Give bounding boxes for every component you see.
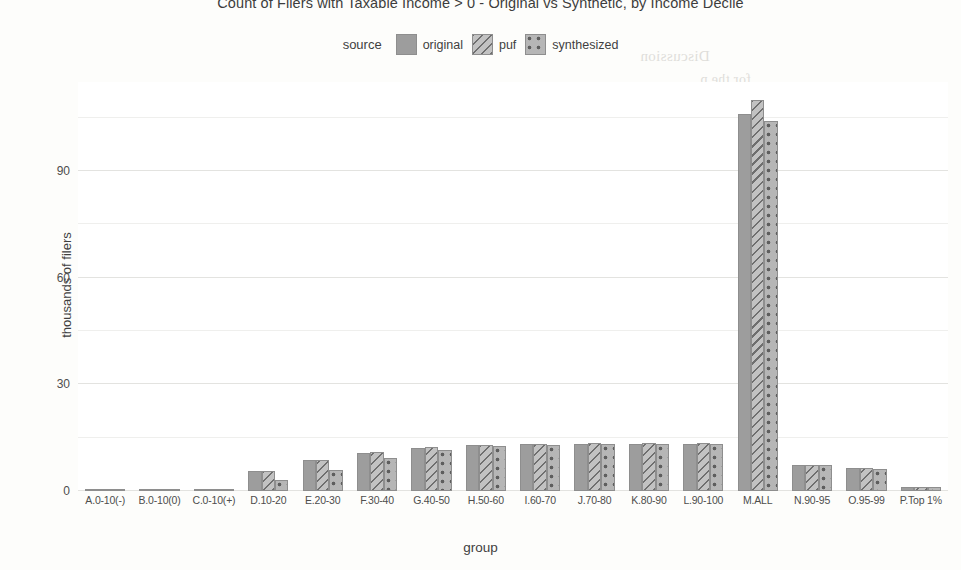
bar-synthesized[interactable] — [710, 444, 723, 491]
legend-swatch-original — [396, 34, 417, 55]
bar-puf[interactable] — [805, 465, 818, 491]
bar-chart: Count of Filers with Taxable Income > 0 … — [0, 0, 961, 570]
bar-group — [894, 82, 948, 491]
bar-synthesized[interactable] — [819, 465, 832, 491]
bar-puf[interactable] — [697, 443, 710, 491]
legend-label-synthesized: synthesized — [552, 38, 618, 52]
chart-legend: source original puf synthesized — [0, 34, 961, 55]
bar-group — [731, 82, 785, 491]
bar-puf[interactable] — [207, 489, 220, 491]
bar-original[interactable] — [901, 487, 914, 491]
bar-original[interactable] — [139, 489, 152, 491]
bar-puf[interactable] — [588, 443, 601, 491]
bar-group — [241, 82, 295, 491]
bar-synthesized[interactable] — [221, 489, 234, 491]
y-axis-label: thousands of filers — [59, 232, 74, 338]
x-tick-label: F.30-40 — [350, 494, 404, 506]
legend-title: source — [343, 37, 382, 52]
x-tick-label: O.95-99 — [839, 494, 893, 506]
bar-original[interactable] — [357, 453, 370, 491]
legend-label-original: original — [423, 38, 463, 52]
bar-puf[interactable] — [479, 445, 492, 491]
bar-puf[interactable] — [316, 460, 329, 491]
x-tick-label: A.0-10(-) — [78, 494, 132, 506]
x-tick-label: I.60-70 — [513, 494, 567, 506]
bar-synthesized[interactable] — [493, 446, 506, 491]
bar-group — [839, 82, 893, 491]
bar-puf[interactable] — [262, 471, 275, 491]
bar-original[interactable] — [411, 448, 424, 491]
bar-group — [350, 82, 404, 491]
bar-puf[interactable] — [425, 447, 438, 491]
bar-synthesized[interactable] — [384, 458, 397, 491]
bar-original[interactable] — [738, 114, 751, 491]
bar-synthesized[interactable] — [656, 444, 669, 491]
x-tick-label: K.80-90 — [622, 494, 676, 506]
x-tick-label: D.10-20 — [241, 494, 295, 506]
x-tick-label: N.90-95 — [785, 494, 839, 506]
bar-synthesized[interactable] — [329, 470, 342, 491]
y-tick-label: 60 — [30, 271, 70, 285]
bar-puf[interactable] — [860, 468, 873, 491]
bar-groups — [78, 82, 948, 491]
bar-group — [785, 82, 839, 491]
legend-swatch-synthesized — [525, 34, 546, 55]
bar-original[interactable] — [85, 489, 98, 491]
bar-puf[interactable] — [98, 489, 111, 491]
legend-item-puf[interactable]: puf — [472, 34, 516, 55]
x-tick-label: C.0-10(+) — [187, 494, 241, 506]
bar-synthesized[interactable] — [873, 469, 886, 491]
bar-puf[interactable] — [370, 452, 383, 491]
x-axis-label: group — [0, 540, 961, 555]
legend-item-original[interactable]: original — [396, 34, 463, 55]
x-tick-label: E.20-30 — [296, 494, 350, 506]
bar-group — [676, 82, 730, 491]
y-tick-label: 0 — [30, 484, 70, 498]
x-tick-label: L.90-100 — [676, 494, 730, 506]
bar-synthesized[interactable] — [438, 450, 451, 491]
legend-swatch-puf — [472, 34, 493, 55]
bar-original[interactable] — [248, 471, 261, 491]
bar-puf[interactable] — [533, 444, 546, 491]
bar-original[interactable] — [683, 444, 696, 491]
chart-title: Count of Filers with Taxable Income > 0 … — [0, 0, 961, 11]
y-tick-label: 30 — [30, 377, 70, 391]
bar-synthesized[interactable] — [601, 444, 614, 491]
bar-original[interactable] — [194, 489, 207, 491]
bar-group — [567, 82, 621, 491]
bar-original[interactable] — [629, 444, 642, 491]
bar-original[interactable] — [846, 468, 859, 491]
bar-original[interactable] — [792, 465, 805, 491]
y-tick-label: 90 — [30, 164, 70, 178]
legend-item-synthesized[interactable]: synthesized — [525, 34, 618, 55]
bar-group — [187, 82, 241, 491]
x-tick-label: G.40-50 — [404, 494, 458, 506]
legend-label-puf: puf — [499, 38, 516, 52]
bar-group — [296, 82, 350, 491]
bar-synthesized[interactable] — [764, 121, 777, 491]
bar-group — [78, 82, 132, 491]
bar-group — [132, 82, 186, 491]
bar-group — [459, 82, 513, 491]
bar-original[interactable] — [574, 444, 587, 491]
bar-puf[interactable] — [642, 443, 655, 491]
bar-synthesized[interactable] — [547, 445, 560, 491]
x-tick-label: P.Top 1% — [894, 494, 948, 506]
bar-group — [513, 82, 567, 491]
bar-synthesized[interactable] — [112, 489, 125, 491]
x-tick-label: M.ALL — [731, 494, 785, 506]
bar-synthesized[interactable] — [275, 480, 288, 491]
bar-group — [622, 82, 676, 491]
bar-synthesized[interactable] — [166, 489, 179, 491]
bar-original[interactable] — [466, 445, 479, 491]
x-axis-ticks: A.0-10(-)B.0-10(0)C.0-10(+)D.10-20E.20-3… — [78, 494, 948, 506]
bar-puf[interactable] — [914, 487, 927, 491]
x-tick-label: J.70-80 — [567, 494, 621, 506]
bar-original[interactable] — [303, 460, 316, 491]
plot-panel: 0306090 — [78, 82, 948, 491]
bar-puf[interactable] — [153, 489, 166, 491]
bar-original[interactable] — [520, 444, 533, 491]
bar-synthesized[interactable] — [928, 487, 941, 491]
bar-group — [404, 82, 458, 491]
bar-puf[interactable] — [751, 100, 764, 491]
